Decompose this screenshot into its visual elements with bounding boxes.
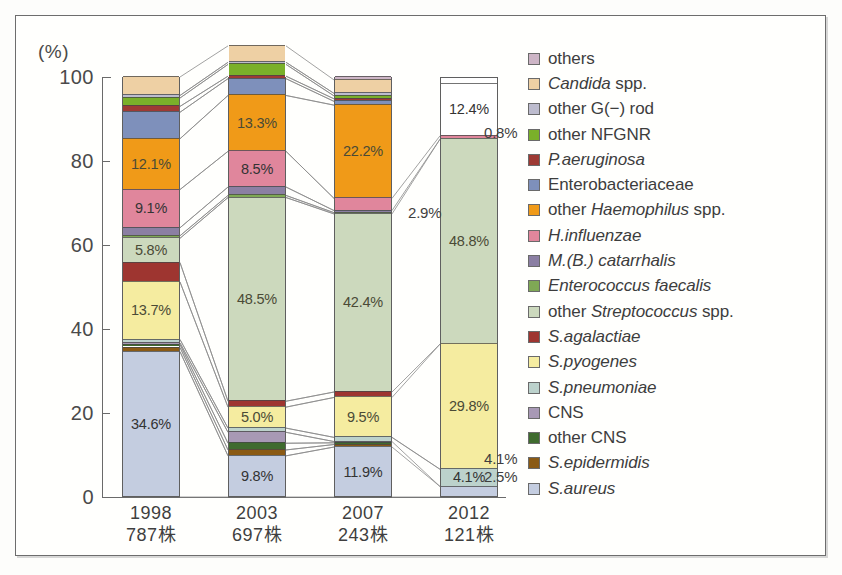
bar-segment[interactable]: 5.0% <box>229 406 285 427</box>
bar-segment[interactable] <box>123 344 179 347</box>
bar-segment[interactable] <box>229 194 285 196</box>
legend-item[interactable]: other Streptococcus spp. <box>528 299 818 324</box>
x-label-2007: 2007243株 <box>303 502 423 546</box>
x-label-year: 1998 <box>91 502 211 524</box>
legend-item[interactable]: others <box>528 46 818 71</box>
bar-segment[interactable] <box>229 61 285 63</box>
y-tick-label-0: 0 <box>34 486 94 509</box>
bar-segment[interactable] <box>229 427 285 431</box>
y-tick-label-20: 20 <box>34 402 94 425</box>
bar-segment[interactable] <box>335 391 391 396</box>
bar-segment[interactable]: 9.8% <box>229 455 285 496</box>
bar-segment[interactable] <box>229 75 285 78</box>
bar-segment[interactable] <box>335 100 391 104</box>
bar-column-2007[interactable]: 11.9%9.5%42.4%22.2% <box>334 77 392 497</box>
legend-item[interactable]: S.pneumoniae <box>528 375 818 400</box>
bar-segment[interactable] <box>123 94 179 97</box>
legend-swatch-icon <box>528 306 540 318</box>
legend-item[interactable]: Candida spp. <box>528 71 818 96</box>
bar-segment[interactable] <box>335 210 391 212</box>
legend-item[interactable]: S.agalactiae <box>528 324 818 349</box>
legend-item[interactable]: P.aeruginosa <box>528 147 818 172</box>
bar-segment[interactable] <box>229 63 285 75</box>
bar-segment[interactable]: 34.6% <box>123 351 179 496</box>
bar-segment[interactable]: 48.5% <box>229 197 285 401</box>
bar-segment[interactable] <box>123 339 179 342</box>
legend-swatch-icon <box>528 432 540 444</box>
legend-label-italic: Enterococcus faecalis <box>548 276 711 295</box>
bar-segment[interactable] <box>123 97 179 105</box>
bar-segment[interactable] <box>335 98 391 101</box>
bar-segment[interactable] <box>229 400 285 406</box>
bar-segment[interactable] <box>335 92 391 95</box>
legend-item[interactable]: other G(−) rod <box>528 97 818 122</box>
legend-item[interactable]: S.aureus <box>528 476 818 501</box>
bar-segment[interactable]: 48.8% <box>441 138 497 343</box>
legend-item[interactable]: CNS <box>528 400 818 425</box>
segment-value-label: 11.9% <box>343 464 382 480</box>
bar-segment[interactable] <box>123 105 179 111</box>
bar-column-1998[interactable]: 34.6%13.7%5.8%9.1%12.1% <box>122 77 180 497</box>
bar-segment[interactable] <box>123 227 179 235</box>
bar-segment[interactable] <box>123 235 179 238</box>
legend-item[interactable]: S.pyogenes <box>528 350 818 375</box>
bar-segment[interactable] <box>335 442 391 444</box>
bar-segment[interactable] <box>123 76 179 94</box>
legend-item[interactable]: S.epidermidis <box>528 451 818 476</box>
bar-segment[interactable] <box>123 262 179 281</box>
x-label-count: 787株 <box>91 524 211 546</box>
bar-segment[interactable] <box>123 342 179 344</box>
bar-segment[interactable] <box>335 197 391 209</box>
bar-segment[interactable] <box>229 45 285 61</box>
y-tick-label-100: 100 <box>34 66 94 89</box>
bar-segment[interactable]: 8.5% <box>229 150 285 186</box>
bar-2007[interactable]: 11.9%9.5%42.4%22.2% <box>334 77 392 497</box>
bar-segment[interactable] <box>123 111 179 137</box>
legend-item[interactable]: H.influenzae <box>528 223 818 248</box>
legend-item[interactable]: other CNS <box>528 425 818 450</box>
legend-swatch-icon <box>528 204 540 216</box>
bar-segment[interactable] <box>335 441 391 442</box>
bar-1998[interactable]: 34.6%13.7%5.8%9.1%12.1% <box>122 77 180 497</box>
bar-2003[interactable]: 9.8%5.0%48.5%8.5%13.3% <box>228 77 286 497</box>
bar-segment[interactable] <box>335 436 391 440</box>
bar-segment[interactable]: 13.3% <box>229 94 285 150</box>
bar-segment[interactable] <box>229 442 285 449</box>
y-axis-tick-labels: 100806040200 <box>26 16 94 557</box>
bar-segment[interactable] <box>335 79 391 92</box>
segment-value-label: 22.2% <box>343 143 383 159</box>
bar-segment[interactable]: 11.9% <box>335 446 391 496</box>
bar-segment[interactable]: 9.5% <box>335 396 391 436</box>
bar-segment[interactable]: 42.4% <box>335 213 391 391</box>
bar-segment[interactable] <box>335 444 391 447</box>
bar-segment[interactable]: 13.7% <box>123 281 179 339</box>
legend-item[interactable]: Enterococcus faecalis <box>528 274 818 299</box>
legend-item[interactable]: M.(B.) catarrhalis <box>528 248 818 273</box>
y-tick-label-40: 40 <box>34 318 94 341</box>
bar-segment[interactable] <box>335 95 391 98</box>
bar-segment[interactable]: 5.8% <box>123 237 179 261</box>
legend-swatch-icon <box>528 280 540 292</box>
bar-segment[interactable] <box>229 431 285 442</box>
legend-item[interactable]: Enterobacteriaceae <box>528 172 818 197</box>
bar-segment[interactable] <box>229 186 285 194</box>
bar-segment[interactable] <box>229 78 285 95</box>
segment-value-label: 5.8% <box>135 242 167 258</box>
bar-segment[interactable] <box>335 76 391 79</box>
legend-item-label: CNS <box>548 403 584 423</box>
bar-column-2003[interactable]: 9.8%5.0%48.5%8.5%13.3% <box>228 77 286 497</box>
bar-segment[interactable]: 22.2% <box>335 104 391 197</box>
bar-segment[interactable] <box>335 212 391 213</box>
bar-segment[interactable] <box>229 449 285 455</box>
legend-item[interactable]: other NFGNR <box>528 122 818 147</box>
callout-label: 4.1% <box>484 450 517 467</box>
bar-segment[interactable]: 12.1% <box>123 138 179 189</box>
bar-segment[interactable] <box>123 347 179 351</box>
segment-value-label: 42.4% <box>343 294 383 310</box>
legend-item-label: M.(B.) catarrhalis <box>548 251 676 271</box>
legend-item[interactable]: other Haemophilus spp. <box>528 198 818 223</box>
bar-segment[interactable]: 9.1% <box>123 189 179 227</box>
x-label-count: 121株 <box>409 524 529 546</box>
bar-segment[interactable] <box>441 486 497 497</box>
legend-item-label: Enterococcus faecalis <box>548 276 711 296</box>
